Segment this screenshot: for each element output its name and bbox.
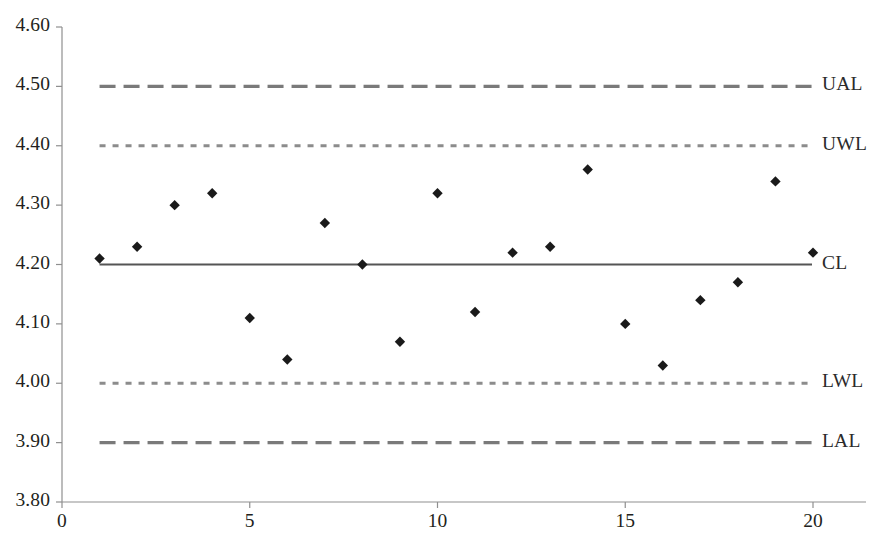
control-chart: 3.803.904.004.104.204.304.404.504.60 051… — [0, 0, 871, 548]
y-axis-tick-label: 4.10 — [0, 311, 50, 333]
data-point — [545, 241, 555, 251]
data-point — [658, 360, 668, 370]
x-axis-tick-label: 5 — [210, 510, 290, 532]
data-point — [583, 164, 593, 174]
y-axis-tick-label: 4.40 — [0, 133, 50, 155]
y-axis-tick-label: 4.50 — [0, 73, 50, 95]
y-axis-tick-label: 4.30 — [0, 192, 50, 214]
data-point — [733, 277, 743, 287]
data-point — [770, 176, 780, 186]
y-axis-tick-label: 4.00 — [0, 370, 50, 392]
y-axis-tick-label: 4.20 — [0, 252, 50, 274]
data-point — [245, 313, 255, 323]
data-points — [94, 164, 818, 370]
x-axis-tick-label: 20 — [773, 510, 853, 532]
data-point — [132, 241, 142, 251]
data-point — [395, 336, 405, 346]
reference-lines — [100, 86, 812, 442]
data-point — [432, 188, 442, 198]
y-axis-tick-label: 3.80 — [0, 489, 50, 511]
chart-axes — [56, 27, 866, 508]
data-point — [357, 259, 367, 269]
reference-line-label-cl: CL — [822, 252, 847, 274]
data-point — [808, 247, 818, 257]
reference-line-label-uwl: UWL — [822, 133, 867, 155]
data-point — [507, 247, 517, 257]
reference-line-label-lal: LAL — [822, 430, 861, 452]
reference-line-label-lwl: LWL — [822, 370, 863, 392]
reference-line-label-ual: UAL — [822, 73, 863, 95]
chart-canvas — [0, 0, 871, 548]
data-point — [94, 253, 104, 263]
x-axis-tick-label: 15 — [585, 510, 665, 532]
x-axis-tick-label: 0 — [22, 510, 102, 532]
y-axis-tick-label: 3.90 — [0, 430, 50, 452]
data-point — [207, 188, 217, 198]
data-point — [320, 218, 330, 228]
data-point — [169, 200, 179, 210]
y-axis-tick-label: 4.60 — [0, 14, 50, 36]
data-point — [470, 307, 480, 317]
data-point — [282, 354, 292, 364]
data-point — [695, 295, 705, 305]
data-point — [620, 319, 630, 329]
x-axis-tick-label: 10 — [398, 510, 478, 532]
